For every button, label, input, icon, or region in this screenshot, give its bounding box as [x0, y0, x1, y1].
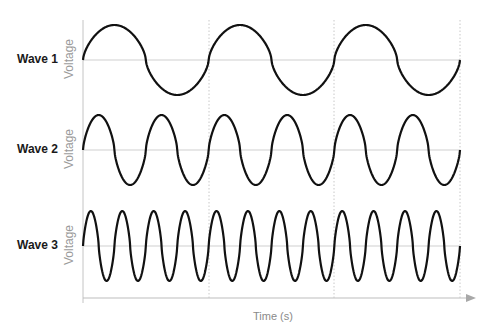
wave3-voltage-label: Voltage: [62, 215, 76, 275]
wave3-label: Wave 3: [17, 238, 58, 252]
x-axis-arrow-icon: [466, 294, 476, 302]
wave2-label: Wave 2: [17, 142, 58, 156]
wave1-voltage-label: Voltage: [62, 29, 76, 89]
wave1-label: Wave 1: [17, 52, 58, 66]
wave2-voltage-label: Voltage: [62, 119, 76, 179]
x-axis-label: Time (s): [253, 310, 293, 322]
